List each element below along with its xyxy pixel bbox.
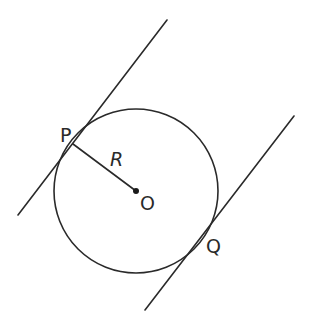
label-o: O — [140, 192, 155, 214]
radius-segment — [73, 144, 136, 191]
tangent-line-q — [145, 116, 294, 310]
center-point-o — [133, 188, 139, 194]
circle-tangent-diagram: P R O Q — [0, 0, 312, 315]
label-q: Q — [206, 235, 221, 257]
label-r: R — [110, 148, 123, 170]
label-p: P — [60, 124, 71, 146]
tangent-line-p — [18, 20, 167, 215]
